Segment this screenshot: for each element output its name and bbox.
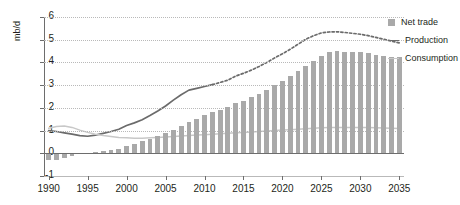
legend-label-consumption: Consumption xyxy=(405,53,458,63)
net-trade-bar xyxy=(194,119,199,154)
x-tick-label: 2005 xyxy=(146,183,186,194)
x-tick-label: 2020 xyxy=(262,183,302,194)
legend-item-net-trade[interactable]: Net trade xyxy=(388,14,460,30)
net-trade-bar xyxy=(233,103,238,153)
chart-container: mb/d -10123456 1990199520002005201020152… xyxy=(0,0,460,205)
net-trade-bar xyxy=(155,136,160,153)
net-trade-bar xyxy=(148,139,153,153)
legend-label-net-trade: Net trade xyxy=(401,17,438,27)
x-tick-label: 1990 xyxy=(29,183,69,194)
net-trade-bar xyxy=(171,130,176,153)
gridline xyxy=(44,40,404,41)
net-trade-swatch-icon xyxy=(388,19,395,26)
net-trade-bar xyxy=(140,141,145,153)
net-trade-bar xyxy=(124,146,129,153)
x-tick-mark xyxy=(321,176,322,180)
net-trade-bar xyxy=(225,107,230,153)
net-trade-bar xyxy=(381,56,386,154)
production-swatch-icon xyxy=(388,40,399,41)
net-trade-bar xyxy=(218,110,223,154)
x-tick-label: 2035 xyxy=(379,183,419,194)
gridline xyxy=(44,17,404,18)
x-tick-mark xyxy=(127,176,128,180)
x-tick-mark xyxy=(243,176,244,180)
net-trade-bar xyxy=(350,52,355,153)
net-trade-bar xyxy=(335,51,340,153)
net-trade-bar xyxy=(319,56,324,154)
net-trade-bar xyxy=(272,85,277,153)
net-trade-bar xyxy=(163,133,168,153)
net-trade-bar xyxy=(303,66,308,154)
x-tick-label: 2000 xyxy=(107,183,147,194)
plot-area xyxy=(44,17,404,176)
x-tick-label: 2030 xyxy=(340,183,380,194)
net-trade-bar xyxy=(397,57,402,153)
net-trade-bar xyxy=(358,52,363,153)
net-trade-bar xyxy=(374,55,379,154)
x-tick-mark xyxy=(49,176,50,180)
legend-item-consumption[interactable]: Consumption xyxy=(388,50,460,66)
net-trade-bar xyxy=(202,115,207,154)
x-tick-mark xyxy=(166,176,167,180)
net-trade-bar xyxy=(342,52,347,154)
x-axis-line xyxy=(44,176,404,177)
zero-baseline xyxy=(44,153,404,154)
net-trade-bar xyxy=(132,144,137,154)
net-trade-bar xyxy=(311,61,316,154)
net-trade-bar xyxy=(257,94,262,154)
x-tick-label: 2010 xyxy=(185,183,225,194)
x-tick-mark xyxy=(282,176,283,180)
net-trade-bar xyxy=(296,71,301,153)
net-trade-bar xyxy=(366,53,371,153)
net-trade-bar xyxy=(280,81,285,153)
net-trade-bar xyxy=(210,112,215,153)
net-trade-bar xyxy=(249,97,254,153)
x-tick-mark xyxy=(205,176,206,180)
net-trade-bar xyxy=(179,126,184,153)
x-tick-label: 2025 xyxy=(301,183,341,194)
net-trade-bar xyxy=(241,101,246,154)
x-tick-label: 2015 xyxy=(223,183,263,194)
net-trade-bar xyxy=(288,76,293,153)
net-trade-bar xyxy=(187,122,192,153)
x-tick-label: 1995 xyxy=(68,183,108,194)
legend-label-production: Production xyxy=(405,35,448,45)
net-trade-bar xyxy=(46,153,51,160)
y-tick-mark xyxy=(40,176,44,177)
x-tick-mark xyxy=(360,176,361,180)
chart-legend: Net trade Production Consumption xyxy=(388,14,460,68)
legend-item-production[interactable]: Production xyxy=(388,32,460,48)
net-trade-bar xyxy=(389,57,394,154)
x-tick-mark xyxy=(88,176,89,180)
consumption-swatch-icon xyxy=(388,58,399,59)
x-tick-mark xyxy=(399,176,400,180)
net-trade-bar xyxy=(264,90,269,154)
plot-inner xyxy=(44,17,404,176)
net-trade-bar xyxy=(327,52,332,153)
